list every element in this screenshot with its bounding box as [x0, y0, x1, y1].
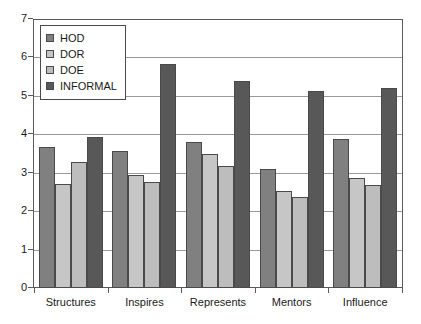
x-axis-tick	[34, 288, 35, 293]
x-axis-label-structures: Structures	[34, 296, 108, 308]
legend-swatch-icon	[46, 66, 54, 74]
y-axis-label: 1	[3, 244, 27, 255]
bar-chart: 01234567 StructuresInspiresRepresentsMen…	[0, 0, 421, 324]
x-axis-label-mentors: Mentors	[255, 296, 329, 308]
bar-represents-doe	[218, 166, 234, 288]
legend-label: HOD	[60, 33, 84, 44]
y-axis-tick	[28, 249, 33, 250]
bar-influence-doe	[365, 185, 381, 288]
legend-swatch-icon	[46, 82, 54, 90]
y-axis-label: 2	[3, 205, 27, 216]
y-axis-tick	[28, 56, 33, 57]
bar-represents-hod	[186, 142, 202, 288]
legend-swatch-icon	[46, 50, 54, 58]
bar-structures-doe	[71, 162, 87, 288]
bar-inspires-doe	[144, 182, 160, 288]
bar-influence-hod	[333, 139, 349, 288]
x-axis-tick	[255, 288, 256, 293]
legend-label: INFORMAL	[60, 81, 117, 92]
legend-item-hod: HOD	[46, 30, 117, 46]
legend-item-informal: INFORMAL	[46, 78, 117, 94]
y-axis-tick	[28, 287, 33, 288]
y-axis-tick	[28, 172, 33, 173]
x-axis-tick	[181, 288, 182, 293]
bar-structures-dor	[55, 184, 71, 288]
bar-influence-informal	[381, 88, 397, 288]
x-axis-tick	[402, 288, 403, 293]
y-axis-tick	[28, 18, 33, 19]
x-axis-label-influence: Influence	[328, 296, 402, 308]
y-axis-label: 6	[3, 51, 27, 62]
y-axis-tick	[28, 133, 33, 134]
bar-inspires-informal	[160, 64, 176, 288]
bar-represents-dor	[202, 154, 218, 289]
bar-structures-hod	[39, 147, 55, 288]
bar-structures-informal	[87, 137, 103, 288]
x-axis-tick	[328, 288, 329, 293]
bar-inspires-hod	[112, 151, 128, 288]
x-axis-label-inspires: Inspires	[108, 296, 182, 308]
y-axis: 01234567	[0, 0, 27, 324]
legend-item-dor: DOR	[46, 46, 117, 62]
bar-mentors-doe	[292, 197, 308, 288]
y-axis-label: 5	[3, 90, 27, 101]
bar-mentors-dor	[276, 191, 292, 288]
bar-represents-informal	[234, 81, 250, 289]
y-axis-tick	[28, 95, 33, 96]
bar-mentors-hod	[260, 169, 276, 289]
legend-swatch-icon	[46, 34, 54, 42]
y-axis-tick	[28, 210, 33, 211]
bar-mentors-informal	[308, 91, 324, 288]
legend-label: DOR	[60, 49, 84, 60]
legend-item-doe: DOE	[46, 62, 117, 78]
y-axis-label: 7	[3, 13, 27, 24]
bar-inspires-dor	[128, 175, 144, 288]
bar-influence-dor	[349, 178, 365, 288]
y-axis-label: 0	[3, 282, 27, 293]
x-axis-tick	[108, 288, 109, 293]
x-axis-label-represents: Represents	[181, 296, 255, 308]
chart-legend: HODDORDOEINFORMAL	[40, 25, 126, 100]
y-axis-label: 4	[3, 128, 27, 139]
legend-label: DOE	[60, 65, 84, 76]
y-axis-label: 3	[3, 167, 27, 178]
